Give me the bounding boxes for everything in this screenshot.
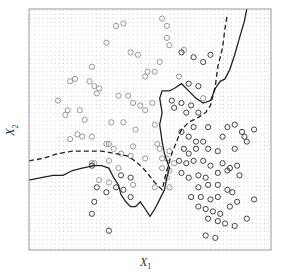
y-axis-label: X2 [3,125,19,136]
knn-decision-boundary-chart [0,0,286,275]
x-axis-label: X1 [140,255,151,271]
plot-background [29,9,271,250]
